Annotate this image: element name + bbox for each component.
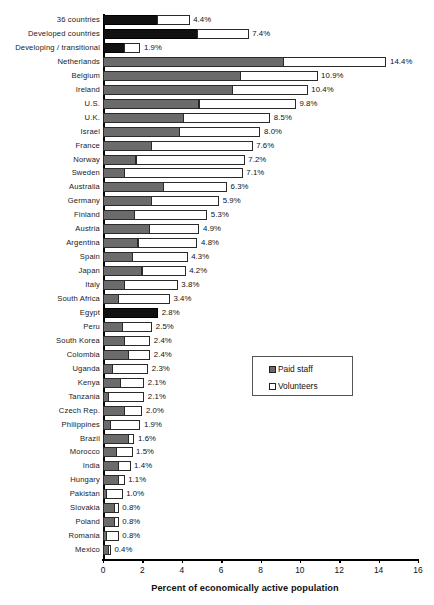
bar-segment-volunteers [114, 517, 119, 527]
bar-segment-paid-staff [103, 85, 233, 95]
bar-segment-volunteers [157, 15, 189, 25]
chart-bar-row: Austria4.9% [103, 224, 418, 234]
bar-segment-paid-staff [103, 434, 129, 444]
bar-segment-volunteers [120, 378, 144, 388]
bar-segment-paid-staff [103, 113, 184, 123]
category-label: Israel [81, 127, 100, 137]
chart-bar-row: India1.4% [103, 461, 418, 471]
bar-value-label: 2.4% [154, 350, 172, 361]
bar-segment-volunteers [124, 406, 143, 416]
bar-segment-volunteers [124, 168, 243, 178]
category-label: Czech Rep. [59, 406, 100, 416]
x-axis-tick [418, 559, 419, 563]
bar-segment-volunteers [128, 434, 135, 444]
chart-bar-row: Spain4.3% [103, 252, 418, 262]
category-label: Brazil [80, 434, 100, 444]
bar-value-label: 0.4% [114, 545, 132, 556]
chart-bar-row: Finland5.3% [103, 210, 418, 220]
chart-bar-row: Poland0.8% [103, 517, 418, 527]
category-label: Sweden [72, 168, 100, 178]
bar-value-label: 1.5% [136, 447, 154, 458]
x-axis-tick [300, 559, 301, 563]
bar-segment-volunteers [151, 141, 252, 151]
category-label: Colombia [67, 350, 100, 360]
bar-segment-paid-staff [103, 336, 125, 346]
bar-segment-paid-staff [103, 308, 158, 318]
chart-legend: Paid staffVolunteers [252, 356, 353, 396]
chart-bar-row: Morocco1.5% [103, 447, 418, 457]
bar-value-label: 5.3% [211, 210, 229, 221]
bar-segment-paid-staff [103, 127, 180, 137]
bar-segment-volunteers [124, 280, 178, 290]
bar-segment-volunteers [136, 155, 245, 165]
bar-segment-volunteers [112, 364, 148, 374]
category-label: Spain [80, 252, 100, 262]
chart-bar-row: Norway7.2% [103, 155, 418, 165]
bar-value-label: 1.6% [138, 434, 156, 445]
chart-bar-row: Sweden7.1% [103, 168, 418, 178]
category-label: Kenya [78, 378, 100, 388]
category-label: Austria [75, 224, 100, 234]
category-label: Mexico [75, 545, 100, 555]
category-label: Netherlands [57, 57, 100, 67]
category-label: Developing / transitional [15, 43, 100, 53]
x-axis-title-text: Percent of economically active populatio… [95, 583, 339, 593]
bar-segment-volunteers [110, 420, 140, 430]
chart-bar-row: Pakistan1.0% [103, 489, 418, 499]
x-axis-tick [182, 559, 183, 563]
chart-container: 36 countries4.4%Developed countries7.4%D… [0, 0, 434, 605]
bar-value-label: 2.5% [156, 322, 174, 333]
bar-segment-paid-staff [103, 210, 135, 220]
bar-value-label: 0.8% [122, 503, 140, 514]
x-axis-tick [142, 559, 143, 563]
bar-segment-volunteers [283, 57, 386, 67]
category-label: Norway [73, 155, 100, 165]
bar-value-label: 3.4% [173, 294, 191, 305]
bar-value-label: 4.2% [189, 266, 207, 277]
bar-value-label: 7.1% [246, 168, 264, 179]
category-label: Poland [75, 517, 100, 527]
chart-bar-row: France7.6% [103, 141, 418, 151]
bar-segment-paid-staff [103, 447, 117, 457]
x-axis-tick [103, 559, 104, 563]
category-label: Developed countries [28, 29, 100, 39]
bar-segment-volunteers [118, 461, 131, 471]
legend-label: Volunteers [278, 381, 318, 391]
bar-segment-volunteers [122, 322, 152, 332]
chart-bar-row: Germany5.9% [103, 196, 418, 206]
x-axis-tick [221, 559, 222, 563]
bar-value-label: 7.4% [252, 29, 270, 40]
chart-bar-row: 36 countries4.4% [103, 15, 418, 25]
legend-swatch-paid-staff-icon [269, 366, 276, 373]
chart-bar-row: Mexico0.4% [103, 545, 418, 555]
bar-segment-paid-staff [103, 461, 119, 471]
bar-segment-volunteers [179, 127, 261, 137]
bar-value-label: 6.3% [231, 182, 249, 193]
bar-value-label: 0.8% [122, 531, 140, 542]
chart-bar-row: U.S.9.8% [103, 99, 418, 109]
bar-segment-volunteers [240, 71, 318, 81]
x-axis-tick-label: 0 [90, 565, 116, 575]
chart-bar-row: Slovakia0.8% [103, 503, 418, 513]
category-label: Egypt [80, 308, 100, 318]
bar-segment-paid-staff [103, 280, 125, 290]
category-label: Peru [83, 322, 100, 332]
bar-value-label: 7.2% [248, 155, 266, 166]
bar-segment-volunteers [149, 224, 199, 234]
bar-segment-paid-staff [103, 196, 152, 206]
bar-segment-paid-staff [103, 406, 125, 416]
bar-value-label: 1.9% [144, 43, 162, 54]
category-label: Tanzania [68, 392, 100, 402]
bar-value-label: 0.8% [122, 517, 140, 528]
x-axis-title: Percent of economically active populatio… [0, 583, 434, 593]
bar-segment-paid-staff [103, 294, 119, 304]
category-label: 36 countries [57, 15, 100, 25]
bar-segment-volunteers [151, 196, 219, 206]
bar-value-label: 1.0% [126, 489, 144, 500]
chart-bar-row: Australia6.3% [103, 182, 418, 192]
bar-value-label: 1.9% [144, 420, 162, 431]
bar-segment-paid-staff [103, 99, 199, 109]
x-axis-tick-label: 6 [208, 565, 234, 575]
bar-segment-volunteers [114, 503, 119, 513]
x-axis-tick-label: 12 [326, 565, 352, 575]
